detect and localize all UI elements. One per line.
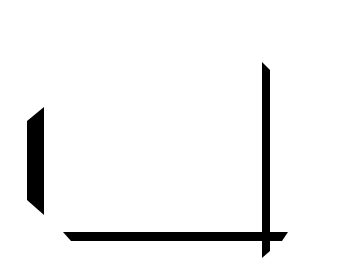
figure-canvas xyxy=(0,0,350,276)
line-drawing xyxy=(0,0,350,276)
bottom-horizontal-bar xyxy=(63,232,288,241)
right-vertical-bar xyxy=(262,62,270,258)
left-bar xyxy=(27,107,44,215)
